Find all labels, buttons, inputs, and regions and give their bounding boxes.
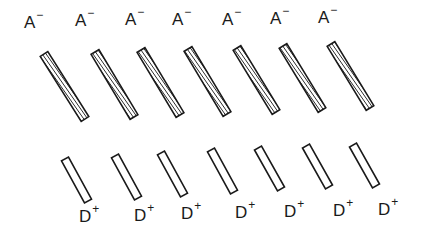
donor-bar-open xyxy=(350,143,380,188)
acceptor-label-charge: − xyxy=(234,5,241,19)
acceptor-label: A− xyxy=(125,11,144,28)
acceptor-bar-hatched xyxy=(91,50,138,120)
donor-bar-open xyxy=(62,157,92,203)
donor-label: D+ xyxy=(181,205,201,222)
donor-label-charge: + xyxy=(194,199,201,213)
donor-label-base: D xyxy=(79,207,91,226)
donor-label: D+ xyxy=(235,204,255,221)
acceptor-label: A− xyxy=(24,14,43,31)
acceptor-label-base: A xyxy=(222,10,233,29)
acceptor-label-charge: − xyxy=(282,4,289,18)
donor-bar-open xyxy=(303,144,333,189)
acceptor-bar-hatched xyxy=(137,48,184,118)
acceptor-label-base: A xyxy=(172,10,183,29)
donor-label-base: D xyxy=(181,204,193,223)
acceptor-label: A− xyxy=(222,11,241,28)
donor-label-charge: + xyxy=(92,202,99,216)
acceptor-label: A− xyxy=(318,9,337,26)
acceptor-label-base: A xyxy=(125,10,136,29)
acceptor-label-base: A xyxy=(24,13,35,32)
acceptor-label-charge: − xyxy=(87,6,94,20)
acceptor-bar-hatched xyxy=(184,47,231,117)
acceptor-label: A− xyxy=(270,10,289,27)
acceptor-bar-hatched xyxy=(40,52,89,122)
donor-acceptor-stack-diagram: A−A−A−A−A−A−A−D+D+D+D+D+D+D+ xyxy=(0,0,422,243)
donor-label: D+ xyxy=(79,208,99,225)
acceptor-label-base: A xyxy=(270,9,281,28)
donor-label-base: D xyxy=(378,200,390,219)
donor-bar-open xyxy=(112,154,142,200)
acceptor-bar-hatched xyxy=(327,42,374,111)
donor-label: D+ xyxy=(284,203,304,220)
donor-label-charge: + xyxy=(248,198,255,212)
donor-label-charge: + xyxy=(147,201,154,215)
acceptor-label-charge: − xyxy=(137,5,144,19)
acceptor-label-charge: − xyxy=(36,8,43,22)
acceptor-label-charge: − xyxy=(184,5,191,19)
acceptor-label: A− xyxy=(75,12,94,29)
donor-bar-open xyxy=(158,151,188,197)
donor-label: D+ xyxy=(134,207,154,224)
donor-molecules xyxy=(62,143,380,203)
donor-label-base: D xyxy=(235,203,247,222)
donor-label-base: D xyxy=(134,206,146,225)
acceptor-label: A− xyxy=(172,11,191,28)
acceptor-label-base: A xyxy=(318,8,329,27)
donor-label: D+ xyxy=(333,202,353,219)
donor-label-base: D xyxy=(333,201,345,220)
acceptor-molecules xyxy=(40,42,374,122)
diagram-svg xyxy=(0,0,422,243)
acceptor-bar-hatched xyxy=(233,46,280,115)
acceptor-label-charge: − xyxy=(330,3,337,17)
donor-bar-open xyxy=(255,146,285,191)
donor-label-base: D xyxy=(284,202,296,221)
donor-label-charge: + xyxy=(346,196,353,210)
acceptor-bar-hatched xyxy=(279,44,326,113)
donor-bar-open xyxy=(208,148,238,194)
donor-label-charge: + xyxy=(297,197,304,211)
donor-label-charge: + xyxy=(391,195,398,209)
acceptor-label-base: A xyxy=(75,11,86,30)
donor-label: D+ xyxy=(378,201,398,218)
